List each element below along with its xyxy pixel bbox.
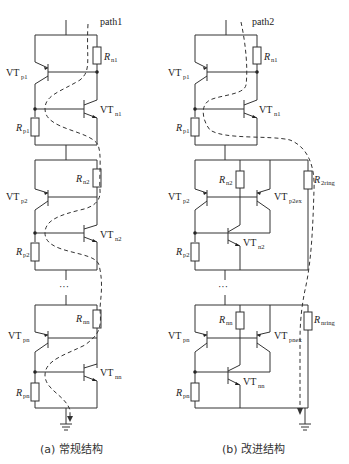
svg-text:R: R — [175, 122, 182, 133]
svg-text:path2: path2 — [252, 16, 274, 27]
resistor-rn2-b — [236, 171, 244, 188]
svg-text:R: R — [15, 246, 22, 257]
svg-text:n1: n1 — [111, 56, 118, 63]
svg-text:pn: pn — [23, 392, 30, 399]
svg-text:VT: VT — [6, 191, 19, 202]
svg-text:p2ex: p2ex — [289, 197, 302, 204]
svg-text:nn: nn — [226, 319, 233, 326]
svg-text:VT: VT — [168, 67, 181, 78]
svg-text:R: R — [15, 387, 22, 398]
stage-1-right — [191, 35, 261, 160]
improved-structure — [191, 20, 314, 430]
svg-text:n1: n1 — [115, 110, 122, 117]
svg-text:R: R — [175, 387, 182, 398]
svg-text:pn: pn — [183, 336, 190, 343]
svg-text:2ring: 2ring — [321, 179, 335, 186]
svg-text:pnex: pnex — [289, 336, 302, 343]
svg-text:R: R — [103, 51, 110, 62]
svg-text:R: R — [218, 174, 225, 185]
svg-text:R: R — [15, 122, 22, 133]
svg-text:nring: nring — [321, 319, 335, 326]
svg-text:p1: p1 — [21, 73, 28, 80]
stage-n-right — [191, 305, 312, 430]
svg-text:VT: VT — [168, 330, 181, 341]
svg-text:VT: VT — [100, 367, 113, 378]
resistor-rn1 — [93, 47, 101, 64]
svg-text:n1: n1 — [271, 56, 278, 63]
svg-text:VT: VT — [243, 376, 256, 387]
resistor-rpn — [31, 383, 39, 401]
svg-text:VT: VT — [100, 229, 113, 240]
path1-current — [45, 24, 102, 420]
circuit-diagram: path1 R n1 VT p1 VT n1 R p1 R n2 VT p2 V… — [0, 0, 349, 464]
caption-conventional: (a) 常规结构 — [40, 440, 103, 456]
svg-text:p2: p2 — [183, 251, 190, 258]
svg-text:pn: pn — [23, 336, 30, 343]
svg-text:R: R — [175, 246, 182, 257]
svg-text:n1: n1 — [274, 110, 281, 117]
svg-text:n2: n2 — [258, 243, 265, 250]
resistor-rp1 — [31, 118, 39, 136]
svg-text:p1: p1 — [183, 127, 190, 134]
resistor-rnring — [304, 312, 312, 330]
svg-text:VT: VT — [274, 330, 287, 341]
svg-text:VT: VT — [8, 330, 21, 341]
svg-text:VT: VT — [259, 104, 272, 115]
caption-improved: (b) 改进结构 — [222, 440, 285, 456]
svg-text:R: R — [313, 174, 320, 185]
svg-text:R: R — [218, 314, 225, 325]
resistor-rp2 — [31, 243, 39, 261]
svg-text:···: ··· — [59, 281, 69, 292]
svg-text:VT: VT — [274, 191, 287, 202]
stage-n-left — [31, 305, 101, 430]
svg-text:n2: n2 — [115, 235, 122, 242]
conventional-structure — [31, 20, 102, 430]
svg-text:p1: p1 — [23, 127, 30, 134]
svg-text:p2: p2 — [183, 197, 190, 204]
svg-text:n2: n2 — [226, 179, 233, 186]
svg-text:VT: VT — [168, 191, 181, 202]
resistor-rpn-b — [191, 383, 199, 401]
labels-left: path1 R n1 VT p1 VT n1 R p1 R n2 VT p2 V… — [6, 16, 122, 399]
svg-text:···: ··· — [218, 281, 228, 292]
resistor-rp2-b — [191, 243, 199, 261]
svg-text:p2: p2 — [23, 251, 30, 258]
svg-text:nn: nn — [115, 373, 122, 380]
svg-text:pn: pn — [183, 392, 190, 399]
resistor-rn1-b — [253, 47, 261, 64]
resistor-r2ring — [304, 171, 312, 189]
labels-right: path2 R n1 VT p1 VT n1 R p1 R n2 R 2ring… — [168, 16, 335, 399]
svg-text:R: R — [313, 314, 320, 325]
resistor-rnn-b — [236, 312, 244, 329]
svg-text:R: R — [263, 51, 270, 62]
svg-text:R: R — [75, 173, 82, 184]
svg-text:p2: p2 — [21, 197, 28, 204]
svg-text:n2: n2 — [83, 178, 90, 185]
svg-text:nn: nn — [83, 318, 90, 325]
svg-text:VT: VT — [243, 237, 256, 248]
svg-text:p1: p1 — [183, 73, 190, 80]
svg-text:R: R — [75, 313, 82, 324]
stage-1-left — [31, 35, 101, 160]
svg-text:path1: path1 — [100, 16, 122, 27]
svg-text:VT: VT — [100, 104, 113, 115]
stage-2-right — [191, 160, 312, 305]
svg-text:VT: VT — [6, 67, 19, 78]
svg-text:nn: nn — [258, 382, 265, 389]
resistor-rp1-b — [191, 118, 199, 136]
path2-current — [203, 22, 314, 412]
